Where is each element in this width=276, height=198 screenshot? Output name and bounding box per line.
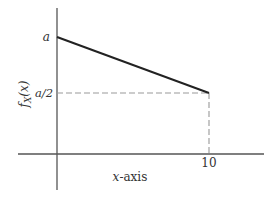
y-axis-label-arg: (x): [17, 80, 31, 96]
x-axis-label-rest: -axis: [119, 170, 147, 184]
pdf-line-segment: [57, 37, 209, 93]
y-axis-label: fX(x): [17, 80, 33, 108]
pdf-chart: a a/2 10 x-axis fX(x): [0, 0, 276, 198]
x-tick-10: 10: [201, 156, 216, 170]
y-tick-a-half: a/2: [35, 86, 53, 100]
x-axis-label: x-axis: [113, 170, 148, 184]
y-tick-a: a: [43, 30, 50, 44]
